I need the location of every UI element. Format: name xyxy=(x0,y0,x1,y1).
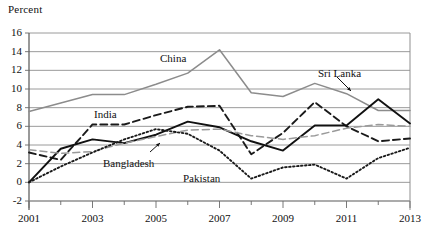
bangladesh-label: Bangladesh xyxy=(103,157,154,169)
x-tick-label-2005: 2005 xyxy=(134,212,178,224)
india-label: India xyxy=(94,108,117,120)
series-line-china xyxy=(29,50,410,112)
x-tick-label-2011: 2011 xyxy=(325,212,369,224)
plot-area xyxy=(0,0,423,234)
y-tick-label-8: 8 xyxy=(0,101,22,113)
series-line-sri-lanka xyxy=(29,99,410,182)
y-tick-label-14: 14 xyxy=(0,45,22,57)
y-tick-label-16: 16 xyxy=(0,26,22,38)
y-tick-label-2: 2 xyxy=(0,157,22,169)
srilanka-label: Sri Lanka xyxy=(318,67,361,79)
y-tick-label-4: 4 xyxy=(0,138,22,150)
x-tick-label-2007: 2007 xyxy=(198,212,242,224)
x-tick-label-2009: 2009 xyxy=(261,212,305,224)
y-tick-label--2: -2 xyxy=(0,194,22,206)
chart-container: Percent 1614121086420-220012003200520072… xyxy=(0,0,423,234)
y-tick-label-12: 12 xyxy=(0,63,22,75)
china-label: China xyxy=(160,52,186,64)
x-tick-label-2003: 2003 xyxy=(71,212,115,224)
y-tick-label-0: 0 xyxy=(0,175,22,187)
y-tick-label-10: 10 xyxy=(0,82,22,94)
pakistan-label: Pakistan xyxy=(183,172,220,184)
x-tick-label-2001: 2001 xyxy=(7,212,51,224)
x-tick-label-2013: 2013 xyxy=(388,212,423,224)
y-tick-label-6: 6 xyxy=(0,119,22,131)
